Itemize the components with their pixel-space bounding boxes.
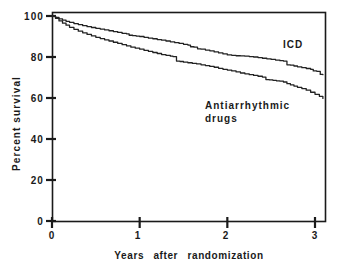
xtick-label-0: 0 bbox=[40, 230, 64, 241]
ytick-label-20: 20 bbox=[2, 175, 44, 186]
y-axis-title: Percent survival bbox=[11, 64, 22, 184]
ytick-label-40: 40 bbox=[2, 134, 44, 145]
ytick-label-60: 60 bbox=[2, 93, 44, 104]
series-label-antiarrhythmic: Antiarrhythmicdrugs bbox=[205, 99, 290, 125]
series-label-antiarrhythmic-line2: drugs bbox=[205, 113, 238, 124]
series-path-antiarrhythmic-drugs bbox=[52, 16, 323, 98]
ytick-label-100: 100 bbox=[2, 11, 44, 22]
series-paths bbox=[52, 16, 323, 98]
ytick-label-0: 0 bbox=[2, 216, 44, 227]
survival-chart-figure: 100 80 60 40 20 0 0 1 2 3 Percent surviv… bbox=[0, 0, 338, 274]
series-label-icd: ICD bbox=[283, 38, 303, 51]
series-label-antiarrhythmic-line1: Antiarrhythmic bbox=[205, 100, 290, 111]
x-axis-title: Years after randomization bbox=[52, 250, 326, 261]
ytick-label-80: 80 bbox=[2, 52, 44, 63]
xtick-label-3: 3 bbox=[303, 230, 327, 241]
xtick-label-2: 2 bbox=[214, 230, 238, 241]
xtick-label-1: 1 bbox=[126, 230, 150, 241]
